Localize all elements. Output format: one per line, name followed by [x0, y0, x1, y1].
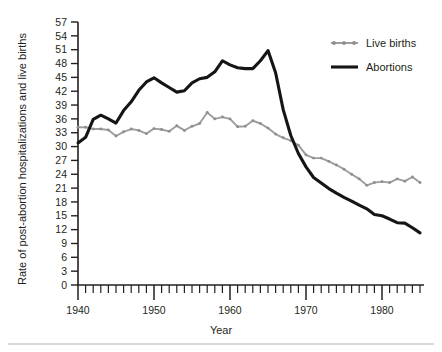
legend-item-live-births[interactable]: Live births — [331, 37, 417, 49]
data-point — [297, 144, 300, 147]
data-point — [145, 132, 148, 135]
data-point — [335, 164, 338, 167]
data-point — [99, 128, 102, 131]
data-point — [191, 125, 194, 128]
data-point — [267, 127, 270, 130]
data-point — [183, 129, 186, 132]
data-point — [168, 130, 171, 133]
plot-area — [77, 51, 422, 233]
data-point — [92, 128, 95, 131]
data-point — [175, 124, 178, 127]
y-tick-label: 24 — [55, 168, 67, 180]
series-live-births-line — [78, 112, 420, 185]
y-tick-label: 36 — [55, 113, 67, 125]
x-tick-group: 19401950196019701980 — [66, 285, 420, 316]
y-axis-title: Rate of post-abortion hospitalizations a… — [16, 33, 28, 285]
x-tick-label: 1950 — [142, 304, 166, 316]
data-point — [107, 129, 110, 132]
data-point — [259, 122, 262, 125]
legend-item-abortions[interactable]: Abortions — [331, 61, 413, 73]
x-tick-label: 1980 — [370, 304, 394, 316]
data-point — [244, 125, 247, 128]
data-point — [365, 184, 368, 187]
data-point — [130, 128, 133, 131]
data-point — [221, 116, 224, 119]
x-tick-label: 1960 — [218, 304, 242, 316]
y-tick-label: 21 — [55, 182, 67, 194]
data-point — [312, 157, 315, 160]
data-point — [419, 181, 422, 184]
y-tick-label: 0 — [61, 279, 67, 291]
data-point — [396, 177, 399, 180]
y-tick-group: 036912151821242730333639424548515457 — [55, 16, 78, 291]
data-point — [350, 173, 353, 176]
y-tick-label: 15 — [55, 209, 67, 221]
data-point — [213, 117, 216, 120]
data-point — [358, 177, 361, 180]
data-point — [251, 119, 254, 122]
y-tick-label: 3 — [61, 265, 67, 277]
x-axis-title-text: Year — [210, 324, 233, 336]
data-point — [411, 176, 414, 179]
line-chart: Rate of post-abortion hospitalizations a… — [0, 0, 442, 352]
legend-marker-dot — [352, 41, 356, 45]
y-tick-label: 45 — [55, 71, 67, 83]
data-point — [206, 111, 209, 114]
data-point — [327, 160, 330, 163]
y-tick-label: 33 — [55, 126, 67, 138]
legend-marker-dot — [342, 41, 346, 45]
legend-label-live-births: Live births — [366, 37, 417, 49]
chart-legend: Live births Abortions — [331, 37, 417, 73]
data-point — [282, 136, 285, 139]
y-axis-title-text: Rate of post-abortion hospitalizations a… — [16, 33, 28, 285]
y-tick-label: 39 — [55, 99, 67, 111]
y-tick-label: 57 — [55, 16, 67, 28]
y-axis: 036912151821242730333639424548515457 — [55, 16, 78, 291]
data-point — [343, 168, 346, 171]
x-tick-label: 1970 — [294, 304, 318, 316]
data-point — [274, 133, 277, 136]
legend-label-abortions: Abortions — [366, 61, 413, 73]
data-point — [198, 122, 201, 125]
y-tick-label: 12 — [55, 223, 67, 235]
data-point — [84, 126, 87, 129]
data-point — [305, 153, 308, 156]
series-abortions-line — [78, 51, 420, 233]
y-tick-label: 30 — [55, 140, 67, 152]
data-point — [160, 128, 163, 131]
data-point — [115, 135, 118, 138]
data-point — [403, 180, 406, 183]
y-tick-label: 27 — [55, 154, 67, 166]
data-point — [153, 127, 156, 130]
data-point — [77, 126, 80, 129]
legend-marker-dot — [332, 41, 336, 45]
data-point — [388, 181, 391, 184]
data-point — [373, 181, 376, 184]
data-point — [122, 130, 125, 133]
chart-figure: Rate of post-abortion hospitalizations a… — [0, 0, 442, 352]
data-point — [381, 180, 384, 183]
y-tick-label: 6 — [61, 251, 67, 263]
y-tick-label: 9 — [61, 237, 67, 249]
data-point — [137, 129, 140, 132]
y-tick-label: 54 — [55, 30, 67, 42]
y-tick-label: 48 — [55, 57, 67, 69]
data-point — [320, 157, 323, 160]
x-axis: 19401950196019701980 — [66, 285, 424, 316]
y-tick-label: 18 — [55, 196, 67, 208]
data-point — [229, 117, 232, 120]
data-point — [236, 125, 239, 128]
y-tick-label: 51 — [55, 43, 67, 55]
x-tick-label: 1940 — [66, 304, 90, 316]
y-tick-label: 42 — [55, 85, 67, 97]
